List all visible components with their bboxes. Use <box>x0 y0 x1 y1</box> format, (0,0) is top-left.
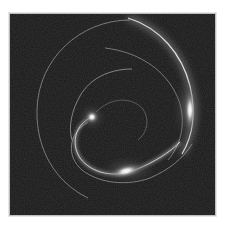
right-glow-spot <box>184 88 196 132</box>
left-glow-spot <box>85 110 99 124</box>
image-panel <box>9 13 216 216</box>
light-arcs-artwork <box>10 14 215 215</box>
